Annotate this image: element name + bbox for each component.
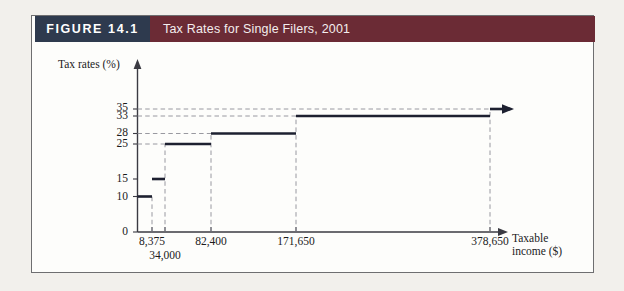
y-tick-label-15: 15 xyxy=(106,172,128,184)
x-tick-label-34000: 34,000 xyxy=(139,249,191,261)
x-tick-label-171650: 171,650 xyxy=(266,235,326,247)
x-tick-label-378650: 378,650 xyxy=(460,235,520,247)
x-tick-label-82400: 82,400 xyxy=(185,235,237,247)
y-tick-label-25: 25 xyxy=(106,137,128,149)
y-tick-label-28: 28 xyxy=(106,126,128,138)
x-tick-label-8375: 8,375 xyxy=(126,235,178,247)
figure-page: FIGURE 14.1 Tax Rates for Single Filers,… xyxy=(0,0,624,291)
figure-title: Tax Rates for Single Filers, 2001 xyxy=(150,16,595,42)
y-tick-label-35: 35 xyxy=(106,101,128,113)
figure-header: FIGURE 14.1 Tax Rates for Single Filers,… xyxy=(35,16,595,42)
y-axis-title: Tax rates (%) xyxy=(58,58,120,70)
figure-number-label: FIGURE 14.1 xyxy=(35,16,150,42)
y-tick-label-0: 0 xyxy=(106,225,128,237)
y-tick-label-10: 10 xyxy=(106,190,128,202)
